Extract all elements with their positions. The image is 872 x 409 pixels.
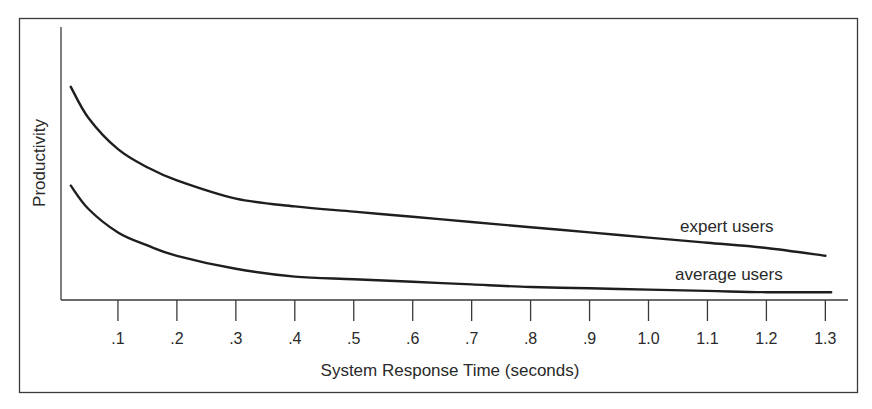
x-axis-tick-labels: .1.2.3.4.5.6.7.8.91.01.11.21.3 [111, 330, 836, 347]
x-tick-label: .4 [288, 330, 301, 347]
x-tick-label: .5 [347, 330, 360, 347]
x-tick-label: .7 [465, 330, 478, 347]
x-axis-title: System Response Time (seconds) [321, 361, 580, 380]
average-users-label: average users [675, 265, 783, 284]
x-tick-label: .8 [524, 330, 537, 347]
x-tick-label: .3 [229, 330, 242, 347]
x-tick-label: 1.2 [755, 330, 777, 347]
productivity-chart: .1.2.3.4.5.6.7.8.91.01.11.21.3 expert us… [0, 0, 872, 409]
x-axis-ticks [118, 300, 825, 321]
x-tick-label: 1.0 [637, 330, 659, 347]
x-tick-label: 1.1 [696, 330, 718, 347]
x-tick-label: .9 [583, 330, 596, 347]
x-tick-label: .6 [406, 330, 419, 347]
chart-frame [20, 19, 858, 393]
expert-users-label: expert users [680, 217, 774, 236]
y-axis-title: Productivity [30, 119, 49, 207]
x-tick-label: .2 [170, 330, 183, 347]
x-tick-label: .1 [111, 330, 124, 347]
x-tick-label: 1.3 [814, 330, 836, 347]
